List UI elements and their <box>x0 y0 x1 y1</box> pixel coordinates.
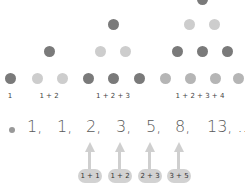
dot <box>57 73 68 84</box>
sum-pill: 1 + 1 <box>78 169 102 183</box>
group-label: 1 + 2 + 3 <box>96 92 130 100</box>
sum-pill: 2 + 3 <box>138 169 162 183</box>
dot <box>120 46 131 57</box>
arrow-shaft <box>88 151 91 171</box>
dot <box>185 73 196 84</box>
dot <box>160 73 171 84</box>
sequence-term: 8, <box>175 117 190 136</box>
sum-pill: 3 + 5 <box>167 169 191 183</box>
dot <box>172 46 183 57</box>
sequence-term: 13, ... <box>207 117 245 136</box>
dot <box>209 19 220 30</box>
dot <box>197 46 208 57</box>
dot <box>197 0 208 5</box>
sequence-term: 1, <box>27 117 42 136</box>
sequence-term: 2, <box>86 117 101 136</box>
group-label: 1 <box>8 92 12 100</box>
dot <box>5 73 16 84</box>
sequence-term: 3, <box>116 117 131 136</box>
arrow-shaft <box>177 151 180 171</box>
sum-pill: 1 + 2 <box>108 169 132 183</box>
dot <box>233 73 244 84</box>
dot <box>108 73 119 84</box>
arrow-shaft <box>118 151 121 171</box>
dot <box>184 19 195 30</box>
dot <box>32 73 43 84</box>
dot <box>222 46 233 57</box>
dot <box>95 46 106 57</box>
dot <box>83 73 94 84</box>
dot <box>210 73 221 84</box>
bullet-icon <box>9 127 15 133</box>
dot <box>44 46 55 57</box>
group-label: 1 + 2 + 3 + 4 <box>176 92 225 100</box>
group-label: 1 + 2 <box>39 92 58 100</box>
arrow-shaft <box>148 151 151 171</box>
sequence-term: 1, <box>57 117 72 136</box>
dot <box>108 19 119 30</box>
sequence-term: 5, <box>146 117 161 136</box>
dot <box>134 73 145 84</box>
